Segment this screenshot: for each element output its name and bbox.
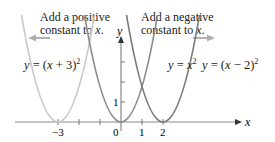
- x-tick-label-neg3: −3: [52, 126, 64, 138]
- equation-x-minus-2-squared: y = (x − 2)2: [202, 57, 258, 73]
- equation-x-squared: y = x2: [168, 57, 196, 73]
- x-axis-label: x: [244, 115, 251, 129]
- x-tick-label-1: 1: [139, 126, 145, 138]
- equation-x-plus-3-squared: y = (x + 3)2: [24, 57, 80, 73]
- x-tick-label-0: 0: [113, 126, 119, 138]
- x-axis: [15, 119, 242, 125]
- x-tick-label-2: 2: [160, 126, 166, 138]
- y-tick-label-1: 1: [113, 96, 119, 108]
- y-axis: [118, 36, 124, 131]
- shift-left-arrow-icon: [28, 35, 50, 42]
- y-axis-label: y: [116, 24, 123, 38]
